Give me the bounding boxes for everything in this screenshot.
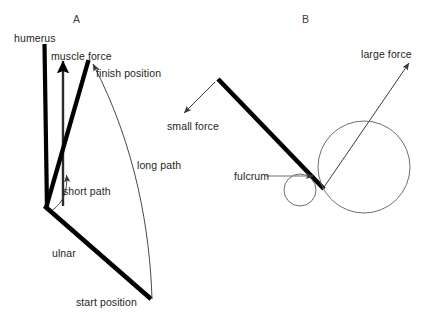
label-small-force: small force	[167, 121, 219, 132]
anatomy-lever-diagram: A B humerus muscle force finish position…	[0, 0, 437, 325]
large-force-arrow	[322, 63, 409, 190]
label-muscle-force: muscle force	[51, 51, 112, 62]
label-humerus: humerus	[14, 33, 56, 44]
label-start-position: start position	[76, 297, 137, 308]
label-long-path: long path	[137, 160, 181, 171]
label-ulnar: ulnar	[52, 248, 76, 259]
long-path-arc	[93, 64, 152, 299]
label-finish-position: finish position	[96, 68, 161, 79]
small-force-arrow	[184, 82, 215, 113]
panel-letter-b: B	[302, 14, 309, 25]
label-short-path: short path	[63, 186, 111, 197]
large-circle-wheel	[318, 121, 410, 213]
panel-letter-a: A	[73, 14, 80, 25]
humerus-bone	[45, 44, 48, 209]
small-circle-axle	[284, 174, 316, 206]
panel-a-graphics	[45, 44, 153, 299]
label-large-force: large force	[361, 49, 412, 60]
label-fulcrum: fulcrum	[234, 171, 269, 182]
panel-b-graphics	[184, 63, 410, 213]
